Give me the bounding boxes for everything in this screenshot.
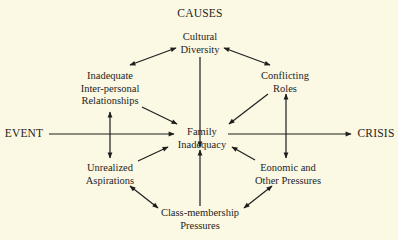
edge-conflicting-family: [229, 94, 268, 124]
edge-cultural-interpersonal: [130, 48, 176, 65]
causes-title: CAUSES: [177, 7, 222, 20]
edge-cultural-conflicting: [224, 48, 270, 65]
node-inter-personal-relationships: Inadequate Inter-personal Relationships: [81, 70, 140, 108]
causes-diagram: CAUSES Cultural Diversity Inadequate Int…: [0, 0, 398, 240]
node-event: EVENT: [5, 127, 44, 140]
edge-interpersonal-family: [142, 107, 177, 124]
node-unrealized-aspirations: Unrealized Aspirations: [86, 162, 134, 187]
node-cultural-diversity: Cultural Diversity: [180, 31, 219, 56]
node-family-inadequacy: Family Inadequacy: [178, 126, 226, 151]
edge-unrealized-family: [138, 147, 168, 161]
node-conflicting-roles: Conflicting Roles: [261, 70, 309, 95]
node-crisis: CRISIS: [358, 127, 395, 140]
edge-economic-class: [244, 186, 272, 208]
node-class-membership-pressures: Class-membership Pressures: [161, 207, 239, 232]
node-economic-pressures: Eonomic and Other Pressures: [255, 162, 321, 187]
edge-economic-family: [232, 147, 255, 160]
edge-unrealized-class: [130, 186, 158, 208]
